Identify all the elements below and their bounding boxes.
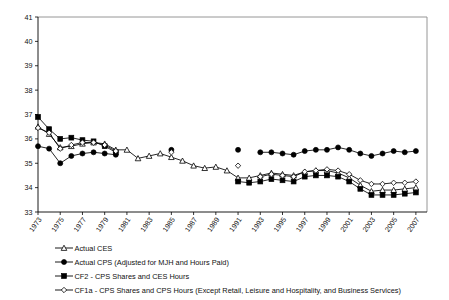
series-polyline	[238, 175, 416, 195]
y-tick-label: 39	[25, 61, 33, 70]
data-point-marker	[247, 180, 252, 185]
x-tick-label: 1981	[116, 215, 133, 233]
y-tick-label: 40	[25, 37, 33, 46]
data-point-marker	[291, 152, 296, 157]
y-tick-label: 34	[25, 183, 33, 192]
data-point-marker	[36, 144, 41, 149]
data-point-marker	[380, 181, 385, 186]
data-point-marker	[336, 174, 341, 179]
line-chart: 3334353637383940411973197519771979198119…	[0, 0, 449, 300]
data-point-marker	[258, 150, 263, 155]
data-point-marker	[347, 147, 352, 152]
legend-item-label: Actual CES	[75, 244, 113, 253]
x-tick-label: 1993	[249, 215, 266, 233]
x-tick-label: 1991	[227, 215, 244, 233]
x-tick-label: 1985	[160, 215, 177, 233]
data-point-marker	[402, 180, 407, 185]
x-tick-label: 1983	[138, 215, 155, 233]
data-point-marker	[358, 186, 363, 191]
data-point-marker	[391, 149, 396, 154]
x-tick-label: 1979	[94, 215, 111, 233]
legend-marker-open-diamond	[61, 287, 66, 292]
series-1	[35, 124, 418, 194]
series-2	[36, 144, 419, 166]
legend-item-label: CF2 - CPS Shares and CES Hours	[75, 272, 190, 281]
data-point-marker	[47, 146, 52, 151]
x-axis: 1973197519771979198119831985198719891991…	[27, 212, 421, 234]
data-point-marker	[302, 149, 307, 154]
data-point-marker	[325, 173, 330, 178]
data-point-marker	[380, 151, 385, 156]
data-point-marker	[313, 147, 318, 152]
data-point-marker	[369, 181, 374, 186]
x-tick-label: 2007	[405, 215, 422, 233]
data-point-marker	[69, 153, 74, 158]
data-point-marker	[336, 145, 341, 150]
data-point-marker	[402, 191, 407, 196]
x-tick-label: 2005	[383, 215, 400, 233]
chart-container: 3334353637383940411973197519771979198119…	[0, 0, 449, 300]
data-point-marker	[347, 172, 352, 177]
data-point-marker	[380, 193, 385, 198]
data-point-marker	[236, 147, 241, 152]
x-tick-label: 1973	[27, 215, 44, 233]
data-point-marker	[413, 179, 418, 184]
data-point-marker	[102, 151, 107, 156]
y-tick-label: 38	[25, 86, 33, 95]
legend-item-label: Actual CPS (Adjusted for MJH and Hours P…	[75, 258, 229, 267]
x-tick-label: 1997	[294, 215, 311, 233]
data-point-marker	[157, 151, 163, 156]
data-point-marker	[269, 150, 274, 155]
y-tick-label: 41	[25, 13, 33, 22]
data-point-marker	[369, 153, 374, 158]
y-tick-label: 36	[25, 134, 33, 143]
data-point-marker	[36, 115, 41, 120]
x-tick-label: 1999	[316, 215, 333, 233]
x-tick-label: 1995	[272, 215, 289, 233]
data-point-marker	[391, 180, 396, 185]
x-tick-label: 1987	[183, 215, 200, 233]
data-point-marker	[280, 173, 285, 178]
data-point-marker	[324, 147, 329, 152]
data-point-marker	[236, 179, 241, 184]
y-tick-label: 35	[25, 159, 33, 168]
x-tick-label: 2003	[361, 215, 378, 233]
legend-item: CF1a - CPS Shares and CPS Hours (Except …	[55, 286, 401, 295]
legend-item: CF2 - CPS Shares and CES Hours	[55, 272, 189, 281]
data-point-marker	[413, 190, 418, 195]
legend-item: Actual CPS (Adjusted for MJH and Hours P…	[55, 258, 229, 267]
data-point-marker	[280, 151, 285, 156]
data-point-marker	[391, 193, 396, 198]
data-point-marker	[402, 150, 407, 155]
data-point-marker	[80, 151, 85, 156]
data-point-marker	[58, 161, 63, 166]
data-point-marker	[369, 193, 374, 198]
series-group	[35, 115, 418, 198]
data-point-marker	[58, 146, 63, 151]
data-point-marker	[413, 149, 418, 154]
data-point-marker	[347, 179, 352, 184]
data-point-marker	[69, 135, 74, 140]
data-point-marker	[269, 172, 274, 177]
x-tick-label: 1989	[205, 215, 222, 233]
data-point-marker	[91, 150, 96, 155]
data-point-marker	[191, 163, 197, 168]
y-tick-label: 33	[25, 208, 33, 217]
legend-item-label: CF1a - CPS Shares and CPS Hours (Except …	[75, 286, 401, 295]
legend: Actual CESActual CPS (Adjusted for MJH a…	[55, 244, 401, 295]
x-tick-label: 1975	[49, 215, 66, 233]
y-tick-label: 37	[25, 110, 33, 119]
data-point-marker	[235, 163, 240, 168]
legend-marker-filled-circle	[62, 260, 67, 265]
x-tick-label: 1977	[72, 215, 89, 233]
legend-item: Actual CES	[55, 244, 112, 253]
x-tick-label: 2001	[338, 215, 355, 233]
data-point-marker	[358, 178, 363, 183]
data-point-marker	[35, 125, 40, 130]
data-point-marker	[58, 136, 63, 141]
data-point-marker	[358, 151, 363, 156]
legend-marker-filled-square	[62, 274, 67, 279]
